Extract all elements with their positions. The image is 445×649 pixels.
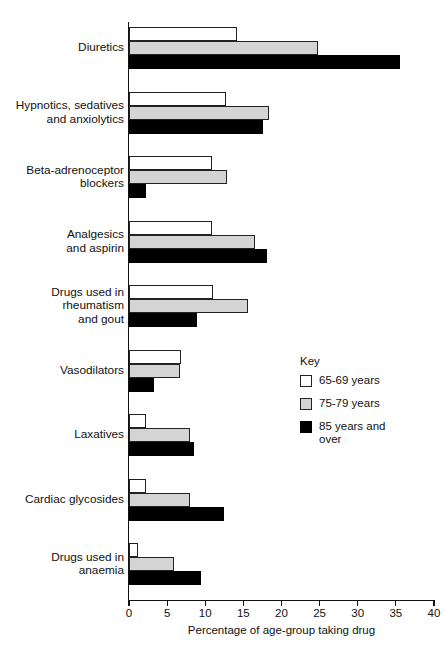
category-label-line: Hypnotics, sedatives: [0, 99, 124, 113]
x-tick-label: 40: [419, 607, 445, 619]
category-label-line: Cardiac glycosides: [0, 493, 124, 507]
category-label: Vasodilators: [0, 364, 124, 378]
bar: [129, 350, 181, 364]
bar: [129, 55, 400, 69]
category-label: Diuretics: [0, 41, 124, 55]
legend-label: 65-69 years: [319, 374, 380, 387]
x-tick: [433, 600, 434, 606]
bar: [129, 106, 269, 120]
legend: Key 65-69 years75-79 years85 years and o…: [300, 355, 386, 456]
legend-title: Key: [300, 355, 386, 367]
bar: [129, 378, 154, 392]
category-label-line: Analgesics: [0, 228, 124, 242]
bar: [129, 92, 226, 106]
bar: [129, 571, 201, 585]
legend-item: 85 years and over: [300, 420, 386, 446]
category-label-line: Vasodilators: [0, 364, 124, 378]
category-label-line: Diuretics: [0, 41, 124, 55]
category-label-line: rheumatism: [0, 299, 124, 313]
category-label: Cardiac glycosides: [0, 493, 124, 507]
bar: [129, 221, 212, 235]
bar: [129, 235, 255, 249]
bar: [129, 507, 224, 521]
category-label-line: Beta-adrenoceptor: [0, 164, 124, 178]
category-label-line: and aspirin: [0, 242, 124, 256]
x-tick-label: 0: [114, 607, 144, 619]
legend-item: 75-79 years: [300, 397, 386, 410]
x-tick-label: 30: [343, 607, 373, 619]
legend-rows: 65-69 years75-79 years85 years and over: [300, 374, 386, 446]
bar: [129, 414, 146, 428]
category-label-line: blockers: [0, 177, 124, 191]
category-label: Drugs used inrheumatismand gout: [0, 286, 124, 327]
bar: [129, 120, 263, 134]
bar: [129, 41, 318, 55]
category-label-line: Drugs used in: [0, 551, 124, 565]
x-tick: [281, 600, 282, 606]
x-tick-label: 10: [190, 607, 220, 619]
bar: [129, 428, 190, 442]
legend-swatch: [300, 398, 312, 410]
x-tick: [357, 600, 358, 606]
bar: [129, 543, 138, 557]
bar: [129, 299, 248, 313]
category-label-line: Laxatives: [0, 428, 124, 442]
category-label: Analgesicsand aspirin: [0, 228, 124, 255]
x-tick: [205, 600, 206, 606]
x-tick-label: 25: [305, 607, 335, 619]
legend-swatch: [300, 421, 312, 433]
bar: [129, 249, 267, 263]
bar: [129, 184, 146, 198]
x-tick-label: 20: [267, 607, 297, 619]
bar: [129, 442, 194, 456]
bar: [129, 479, 146, 493]
x-tick-label: 35: [381, 607, 411, 619]
category-label: Laxatives: [0, 428, 124, 442]
category-label: Drugs used inanaemia: [0, 551, 124, 578]
category-label: Hypnotics, sedativesand anxiolytics: [0, 99, 124, 126]
category-label-line: Drugs used in: [0, 286, 124, 300]
category-label-line: anaemia: [0, 564, 124, 578]
legend-item: 65-69 years: [300, 374, 386, 387]
category-label: Beta-adrenoceptorblockers: [0, 164, 124, 191]
bar: [129, 557, 174, 571]
bar: [129, 493, 190, 507]
bar: [129, 27, 237, 41]
bar: [129, 170, 227, 184]
legend-label: 85 years and over: [319, 420, 386, 446]
category-label-line: and gout: [0, 313, 124, 327]
x-tick: [128, 600, 129, 606]
x-axis-title: Percentage of age-group taking drug: [129, 624, 434, 636]
bar: [129, 313, 197, 327]
x-tick-label: 15: [228, 607, 258, 619]
legend-swatch: [300, 375, 312, 387]
bar: [129, 156, 212, 170]
bar: [129, 285, 213, 299]
category-label-line: and anxiolytics: [0, 113, 124, 127]
bar: [129, 364, 180, 378]
x-tick: [167, 600, 168, 606]
legend-label: 75-79 years: [319, 397, 380, 410]
x-tick: [395, 600, 396, 606]
x-tick-label: 5: [152, 607, 182, 619]
x-tick: [243, 600, 244, 606]
x-tick: [319, 600, 320, 606]
